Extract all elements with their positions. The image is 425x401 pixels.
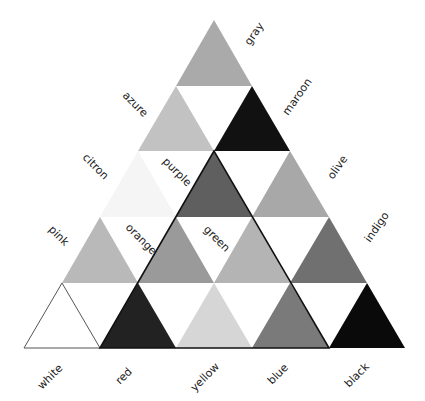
label-blue: blue xyxy=(265,361,291,387)
triangle-black xyxy=(329,283,405,348)
triangle-gray xyxy=(176,20,252,86)
label-yellow: yellow xyxy=(188,360,222,394)
triangle-maroon xyxy=(214,86,290,151)
label-azure: azure xyxy=(120,89,151,120)
label-citron-text: citron xyxy=(80,151,111,182)
label-orange: orange xyxy=(123,221,160,258)
label-purple: purple xyxy=(160,155,194,189)
color-triangle-diagram: gray azure maroon citron citron purple o… xyxy=(0,0,425,401)
label-green: green xyxy=(201,223,233,255)
triangle-indigo xyxy=(290,217,367,283)
triangle-azure xyxy=(138,86,214,151)
label-indigo: indigo xyxy=(362,209,392,244)
label-olive: olive xyxy=(325,153,351,182)
label-gray: gray xyxy=(242,20,267,48)
label-pink: pink xyxy=(46,223,72,249)
triangle-olive xyxy=(252,151,329,217)
label-red: red xyxy=(113,365,135,387)
triangle-red xyxy=(100,283,176,348)
label-maroon: maroon xyxy=(280,76,315,118)
triangle-white xyxy=(24,283,100,348)
triangle-blue xyxy=(252,283,329,348)
label-black: black xyxy=(342,360,372,390)
label-white: white xyxy=(35,361,66,392)
triangle-yellow xyxy=(176,283,252,348)
